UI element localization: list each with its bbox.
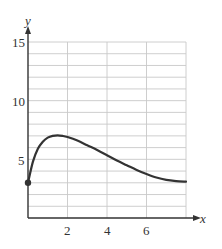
y-tick-label-10: 10 (12, 95, 25, 108)
x-tick-label-6: 6 (143, 224, 150, 237)
y-axis-label: y (25, 14, 31, 27)
x-axis-label: x (200, 212, 206, 225)
start-point-marker (25, 180, 31, 186)
axes (25, 26, 201, 221)
y-tick-label-15: 15 (12, 36, 25, 49)
x-tick-label-4: 4 (104, 224, 111, 237)
y-tick-label-5: 5 (18, 154, 25, 167)
x-tick-label-2: 2 (64, 224, 71, 237)
line-chart (0, 0, 222, 249)
grid-lines (28, 42, 186, 218)
